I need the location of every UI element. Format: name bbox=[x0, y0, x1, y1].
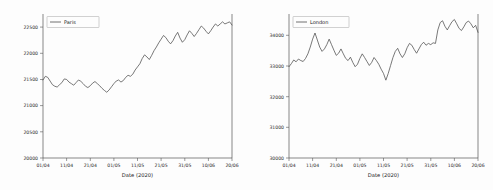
paris-xtick-5: 21/05 bbox=[154, 163, 167, 168]
paris-ytick-1: 20500 bbox=[23, 130, 38, 135]
london-legend[interactable]: London bbox=[293, 17, 349, 28]
london-ytick-1: 31000 bbox=[269, 125, 284, 130]
london-xtick-5: 21/05 bbox=[400, 163, 413, 168]
paris-ytick-5: 22500 bbox=[23, 25, 38, 30]
london-xtick-7: 10/06 bbox=[448, 163, 461, 168]
london-plot-svg: 30000 31000 32000 33000 34000 01/04 bbox=[246, 0, 492, 190]
paris-x-ticklabels: 01/04 11/04 21/04 01/05 11/05 21/05 31/0… bbox=[36, 163, 238, 168]
chart-panel-london: 30000 31000 32000 33000 34000 01/04 bbox=[246, 0, 492, 190]
paris-ytick-4: 22000 bbox=[23, 51, 38, 56]
london-xtick-1: 11/04 bbox=[306, 163, 319, 168]
paris-xtick-7: 10/06 bbox=[202, 163, 215, 168]
paris-legend-label: Paris bbox=[64, 19, 76, 25]
london-xtick-8: 20/06 bbox=[471, 163, 484, 168]
london-xtick-2: 21/04 bbox=[330, 163, 343, 168]
london-ytick-4: 34000 bbox=[269, 33, 284, 38]
chart-panel-paris: 20000 20500 21000 21500 22000 22500 bbox=[0, 0, 246, 190]
london-legend-label: London bbox=[310, 19, 328, 25]
london-ytick-0: 30000 bbox=[269, 156, 284, 161]
paris-xtick-8: 20/06 bbox=[225, 163, 238, 168]
paris-ytick-3: 21500 bbox=[23, 77, 38, 82]
paris-legend[interactable]: Paris bbox=[47, 17, 99, 28]
paris-xtick-6: 31/05 bbox=[178, 163, 191, 168]
london-ytick-2: 32000 bbox=[269, 95, 284, 100]
london-xtick-6: 31/05 bbox=[424, 163, 437, 168]
london-ytick-3: 33000 bbox=[269, 64, 284, 69]
london-x-ticklabels: 01/04 11/04 21/04 01/05 11/05 21/05 31/0… bbox=[282, 163, 484, 168]
london-xtick-0: 01/04 bbox=[282, 163, 295, 168]
london-xtick-3: 01/05 bbox=[353, 163, 366, 168]
paris-xaxis-label: Date (2020) bbox=[122, 172, 153, 178]
paris-xtick-4: 11/05 bbox=[131, 163, 144, 168]
paris-ytick-0: 20000 bbox=[23, 156, 38, 161]
paris-plot-svg: 20000 20500 21000 21500 22000 22500 bbox=[0, 0, 246, 190]
london-xaxis-label: Date (2020) bbox=[368, 172, 399, 178]
london-xtick-4: 11/05 bbox=[377, 163, 390, 168]
paris-xtick-0: 01/04 bbox=[36, 163, 49, 168]
paris-ytick-2: 21000 bbox=[23, 103, 38, 108]
paris-xtick-2: 21/04 bbox=[84, 163, 97, 168]
paris-xtick-3: 01/05 bbox=[107, 163, 120, 168]
figure-container: 20000 20500 21000 21500 22000 22500 bbox=[0, 0, 493, 190]
paris-xtick-1: 11/04 bbox=[60, 163, 73, 168]
